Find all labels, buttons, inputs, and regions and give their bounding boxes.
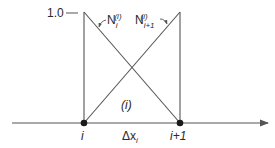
shape-function-diagram: 1.0 Ni(i) Ni+1(i) (i) i i+1 Δxi	[0, 0, 275, 148]
left-label-leader	[99, 20, 106, 27]
node-i	[81, 120, 88, 127]
node-i-plus-1	[177, 120, 184, 127]
shape-function-left-label: Ni(i)	[107, 12, 122, 30]
element-label: (i)	[121, 98, 132, 112]
y-level-label: 1.0	[47, 6, 64, 20]
right-label-leader	[160, 19, 167, 24]
node-i-plus-1-label: i+1	[170, 129, 186, 143]
shape-function-right-label: Ni+1(i)	[135, 12, 155, 30]
node-i-label: i	[81, 129, 84, 143]
element-width-label: Δxi	[122, 129, 138, 145]
